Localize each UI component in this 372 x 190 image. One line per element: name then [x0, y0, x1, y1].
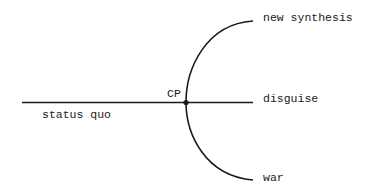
status-quo-label: status quo [42, 109, 111, 121]
disguise-label: disguise [263, 93, 318, 105]
branch-arc [186, 21, 253, 180]
new-synthesis-label: new synthesis [263, 12, 353, 24]
war-label: war [263, 172, 284, 184]
critical-point-dot [183, 100, 188, 105]
critical-point-label: CP [167, 88, 181, 100]
